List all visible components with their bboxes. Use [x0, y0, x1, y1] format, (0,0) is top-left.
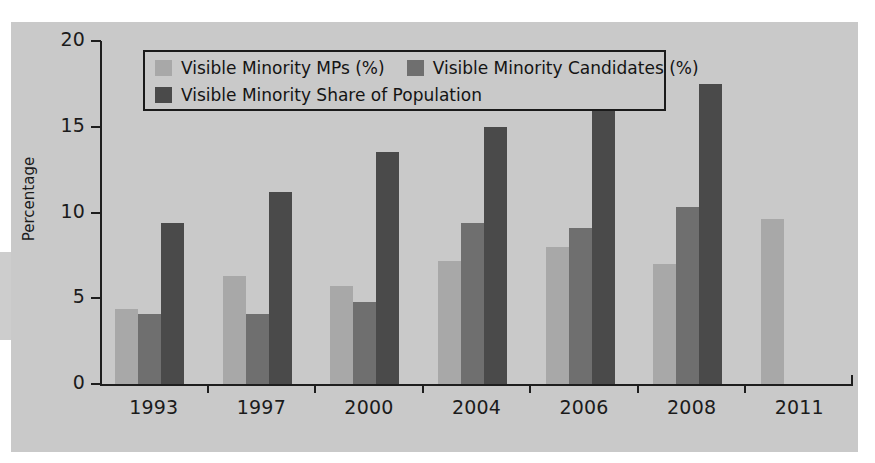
x-axis-line — [100, 384, 853, 386]
bar-1997-series-3 — [269, 192, 292, 384]
y-tick-label-5: 5 — [11, 285, 85, 307]
bar-1997-series-1 — [223, 276, 246, 384]
x-tick-label-1997: 1997 — [206, 396, 316, 418]
y-tick-10 — [91, 212, 101, 214]
y-axis-line — [100, 41, 102, 386]
legend-row-bottom: Visible Minority Share of Population — [155, 82, 504, 108]
bar-2000-series-3 — [376, 152, 399, 384]
y-tick-15 — [91, 126, 101, 128]
plot-area: 05101520 1993199720002004200620082011 Pe… — [11, 22, 858, 452]
x-tick-2006 — [529, 384, 531, 393]
x-tick-2000 — [314, 384, 316, 393]
bar-2006-series-1 — [546, 247, 569, 384]
legend-row-top: Visible Minority MPs (%)Visible Minority… — [155, 55, 721, 81]
legend-swatch-icon-2 — [407, 60, 424, 76]
legend-swatch-icon-3 — [155, 87, 172, 103]
x-tick-2004 — [422, 384, 424, 393]
bar-1993-series-2 — [138, 314, 161, 384]
bar-2008-series-2 — [676, 207, 699, 384]
x-tick-label-2006: 2006 — [529, 396, 639, 418]
legend-label-2: Visible Minority Candidates (%) — [433, 58, 699, 78]
chart-legend: Visible Minority MPs (%)Visible Minority… — [143, 50, 666, 111]
x-tick-label-2004: 2004 — [422, 396, 532, 418]
bar-1993-series-1 — [115, 309, 138, 384]
x-tick-1997 — [207, 384, 209, 393]
chart-panel: 05101520 1993199720002004200620082011 Pe… — [11, 22, 858, 452]
bar-1993-series-3 — [161, 223, 184, 384]
legend-label-1: Visible Minority MPs (%) — [181, 58, 385, 78]
x-tick-label-2011: 2011 — [744, 396, 854, 418]
x-tick-label-2008: 2008 — [637, 396, 747, 418]
bar-1997-series-2 — [246, 314, 269, 384]
legend-swatch-icon-1 — [155, 60, 172, 76]
legend-entry-3: Visible Minority Share of Population — [155, 85, 482, 105]
bar-2004-series-3 — [484, 127, 507, 384]
y-tick-label-0: 0 — [11, 371, 85, 393]
x-tick-label-1993: 1993 — [99, 396, 209, 418]
legend-entry-2: Visible Minority Candidates (%) — [407, 58, 699, 78]
figure-canvas: 05101520 1993199720002004200620082011 Pe… — [0, 0, 875, 463]
y-axis-title: Percentage — [20, 119, 38, 279]
y-tick-label-20: 20 — [11, 28, 85, 50]
bar-2008-series-3 — [699, 84, 722, 384]
bar-2011-series-1 — [761, 219, 784, 384]
bar-2006-series-2 — [569, 228, 592, 384]
x-tick-label-2000: 2000 — [314, 396, 424, 418]
x-axis-right-cap — [851, 375, 853, 386]
y-tick-0 — [91, 383, 101, 385]
legend-label-3: Visible Minority Share of Population — [181, 85, 482, 105]
x-tick-2008 — [637, 384, 639, 393]
bar-2000-series-1 — [330, 286, 353, 384]
x-tick-2011 — [744, 384, 746, 393]
y-tick-20 — [91, 40, 101, 42]
y-tick-5 — [91, 297, 101, 299]
bar-2000-series-2 — [353, 302, 376, 384]
bar-2008-series-1 — [653, 264, 676, 384]
bar-2006-series-3 — [592, 104, 615, 384]
bar-2004-series-2 — [461, 223, 484, 384]
scan-top-margin — [0, 0, 875, 22]
bar-2004-series-1 — [438, 261, 461, 384]
legend-entry-1: Visible Minority MPs (%) — [155, 58, 385, 78]
